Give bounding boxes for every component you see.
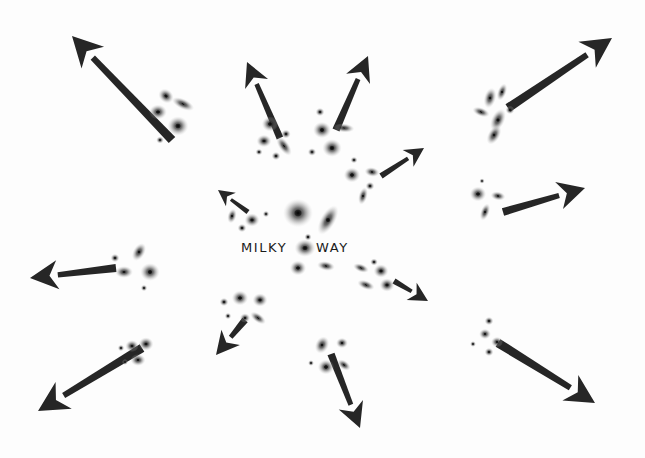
galaxy-core <box>275 155 278 157</box>
galaxy-core <box>175 123 181 129</box>
galaxy-core <box>509 109 512 111</box>
galaxies-layer <box>111 82 515 374</box>
galaxy-core <box>311 151 313 153</box>
arrow-left-middle-head <box>30 260 59 289</box>
arrow-up-right-outer-head <box>578 38 612 68</box>
galaxy-core <box>307 236 309 238</box>
arrow-up-right-inner-shaft <box>379 157 409 179</box>
diagram-canvas <box>0 0 645 458</box>
galaxy-core <box>476 192 481 196</box>
milky-way-label-right: WAY <box>316 240 349 255</box>
galaxy-core <box>159 139 161 141</box>
cluster-left-middle <box>111 241 160 292</box>
galaxy-core <box>488 320 491 322</box>
cluster-up-center-left <box>255 117 294 161</box>
arrow-right-middle-shaft <box>502 193 560 216</box>
cluster-down-center-right <box>308 334 353 375</box>
galaxy-core <box>369 185 372 187</box>
galaxy-core <box>385 283 389 287</box>
galaxy-core <box>136 359 140 362</box>
galaxy-core <box>262 139 266 143</box>
arrow-up-right-outer-shaft <box>505 52 588 111</box>
galaxy-core <box>472 343 474 345</box>
galaxy-core <box>319 128 324 133</box>
milky-way-label-left: MILKY <box>241 240 287 255</box>
galaxy-core <box>481 180 483 182</box>
galaxy-core <box>495 341 498 344</box>
galaxy-core <box>114 257 117 259</box>
cluster-right-lower <box>352 258 395 292</box>
cluster-down-center-left <box>220 291 268 327</box>
arrow-right-middle-head <box>555 182 585 209</box>
galaxy-core <box>147 270 152 275</box>
galaxy-core <box>120 347 122 349</box>
galaxy-core <box>324 365 329 369</box>
arrow-left-middle-shaft <box>58 264 117 277</box>
galaxy-core <box>223 301 226 303</box>
galaxy-core <box>238 296 243 300</box>
galaxy-core <box>373 261 375 263</box>
galaxy-core <box>250 218 254 222</box>
arrow-down-right-outer-shaft <box>496 339 572 390</box>
cluster-right-middle <box>470 178 506 222</box>
galaxy-core <box>244 317 247 320</box>
galaxy-core <box>122 271 126 274</box>
expanding-universe-diagram: MILKY WAY <box>0 0 645 458</box>
galaxy-core <box>483 333 486 336</box>
galaxy-core <box>156 110 161 114</box>
cluster-down-right <box>470 317 503 356</box>
cluster-up-right <box>471 82 514 147</box>
galaxy-core <box>265 213 267 215</box>
galaxy-core <box>350 173 355 177</box>
arrow-up-right-inner-head <box>403 148 424 167</box>
arrow-down-left-outer-shaft <box>62 344 144 398</box>
galaxy-core <box>488 351 491 353</box>
galaxy-core <box>310 362 312 364</box>
galaxy-core <box>285 133 288 136</box>
cluster-up-right-inner <box>344 157 380 206</box>
galaxy-core <box>268 122 273 126</box>
galaxy-core <box>258 151 260 153</box>
galaxy-core <box>296 266 301 270</box>
galaxy-core <box>353 159 355 161</box>
galaxy-core <box>294 209 302 217</box>
galaxy-core <box>302 245 308 250</box>
galaxy-core <box>130 344 134 347</box>
galaxy-core <box>124 361 126 363</box>
galaxy-core <box>144 342 148 346</box>
galaxy-core <box>258 298 262 302</box>
cluster-up-center-right <box>308 108 355 157</box>
galaxy-core <box>319 111 322 113</box>
arrow-center-up-left-head <box>218 190 236 206</box>
galaxy-core <box>329 145 335 150</box>
galaxy-core <box>241 227 244 229</box>
galaxy-core <box>227 315 229 317</box>
arrow-right-lower-inner-shaft <box>392 278 412 293</box>
arrow-up-center-right-shaft <box>333 78 361 132</box>
galaxy-core <box>340 342 343 345</box>
galaxy-core <box>379 269 383 273</box>
galaxy-core <box>143 287 145 289</box>
